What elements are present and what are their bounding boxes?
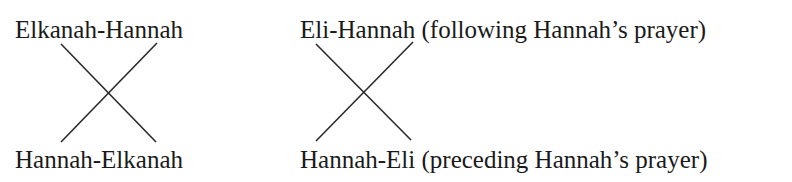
cross-lines <box>0 0 792 182</box>
right-cross-line-up <box>316 42 413 141</box>
